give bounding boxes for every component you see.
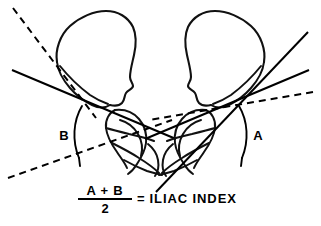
- right-acetabular-solid-line: [156, 32, 308, 192]
- angle-label-a: A: [253, 128, 263, 143]
- left-acetabular-dashed-line: [13, 8, 96, 118]
- angle-arc-a: [239, 106, 247, 158]
- formula-numerator: A + B: [82, 184, 127, 198]
- right-iliac-baseline-solid: [145, 70, 309, 139]
- left-horizontal-dashed-baseline: [8, 120, 172, 178]
- formula-denominator: 2: [101, 200, 108, 215]
- iliac-index-figure: B A A + B 2: [0, 0, 321, 226]
- formula-fraction: A + B 2: [78, 184, 132, 215]
- formula-result-label: ILIAC INDEX: [150, 191, 237, 208]
- angle-b-vertex-tick: [79, 158, 80, 166]
- angle-a-vertex-tick: [241, 158, 242, 166]
- iliac-index-formula: A + B 2 = ILIAC INDEX: [78, 184, 237, 215]
- left-iliac-baseline-solid: [12, 70, 176, 139]
- right-horizontal-dashed-baseline: [149, 92, 313, 120]
- angle-label-b: B: [59, 128, 68, 143]
- right-obturator-foramen: [179, 120, 201, 156]
- angle-arc-b: [74, 106, 82, 158]
- left-iliac-wing-outline: [57, 11, 136, 106]
- formula-equals-sign: =: [137, 191, 145, 208]
